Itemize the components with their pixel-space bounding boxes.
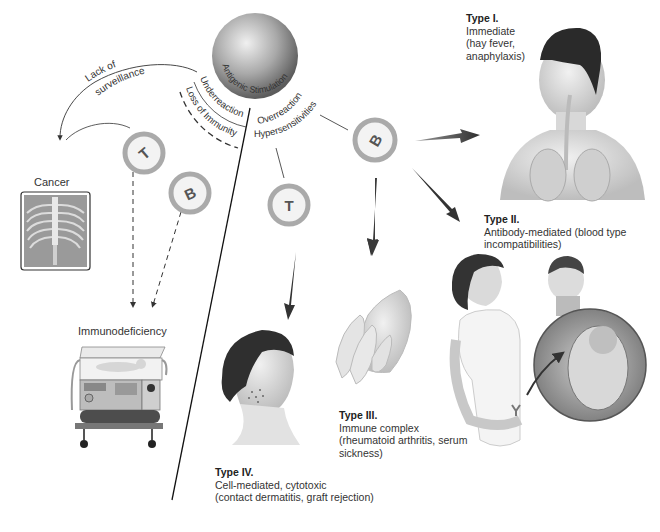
immunodeficiency-incubator-illustration [72,347,167,448]
type-3-title: Type III. [339,409,467,422]
type-4-title: Type IV. [215,466,374,479]
type-2-line2: incompatibilities) [484,238,626,251]
type-1-title: Type I. [466,12,525,25]
type-2-title: Type II. [484,213,626,226]
svg-text:T: T [284,197,293,214]
antigenic-stimulation-sphere: Antigenic Stimulation [212,13,298,99]
b-cell-dashed-arrow [153,212,181,305]
type-3-line1: Immune complex [339,422,467,435]
cancer-ribcage-illustration [21,192,90,270]
arrow-to-type-2 [412,168,460,222]
immunodeficiency-label: Immunodeficiency [78,325,167,338]
type-4-face-illustration [222,330,300,445]
type-3-line3: sickness) [339,447,467,460]
t-cell-right: T [270,186,308,224]
type-2-mother-baby-illustration [452,254,646,446]
arrow-to-type-4 [284,252,296,320]
immune-disorders-diagram: Antigenic Stimulation Underreaction Loss… [0,0,660,532]
type-3-label: Type III. Immune complex (rheumatoid art… [339,409,467,459]
type-1-line1: Immediate [466,25,525,38]
b-cell-right: B [355,120,395,160]
type-3-line2: (rheumatoid arthritis, serum [339,434,467,447]
type-2-line1: Antibody-mediated (blood type [484,226,626,239]
type-2-label: Type II. Antibody-mediated (blood type i… [484,213,626,251]
type-1-line3: anaphylaxis) [466,50,525,63]
type-4-line2: (contact dermatitis, graft rejection) [215,491,374,504]
hyper-to-b-line [320,115,348,130]
type-1-line2: (hay fever, [466,37,525,50]
type-4-line1: Cell-mediated, cytotoxic [215,479,374,492]
type-1-label: Type I. Immediate (hay fever, anaphylaxi… [466,12,525,62]
b-cell-left: B [171,174,209,212]
arrow-to-type-1 [415,129,480,143]
t-cell-to-cancer-line [66,123,130,140]
cancer-label: Cancer [34,176,69,189]
type-4-label: Type IV. Cell-mediated, cytotoxic (conta… [215,466,374,504]
t-cell-left: T [125,134,163,172]
hyper-to-t-line [276,148,284,178]
type-3-hand-illustration [336,290,411,384]
